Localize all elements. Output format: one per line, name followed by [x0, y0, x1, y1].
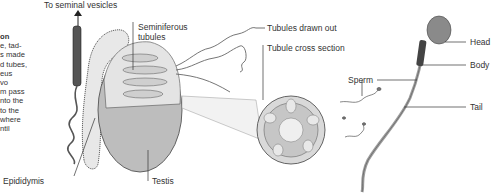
large-sperm [362, 16, 451, 192]
caption-paragraph: on e, tad- s made d tubes, eus vo m pass… [0, 32, 27, 133]
label-to-seminal-vesicles: To seminal vesicles [44, 0, 117, 10]
caption-line: nto the [0, 96, 27, 105]
caption-heading: on [0, 32, 27, 41]
reproductive-diagram [0, 0, 496, 194]
label-tubules-drawn-out: Tubules drawn out [267, 23, 337, 33]
label-epididymis: Epididymis [3, 176, 44, 186]
tubules-drawn-out [176, 28, 256, 92]
label-sperm: Sperm [348, 75, 373, 85]
caption-line: to the [0, 106, 27, 115]
caption-line: where [0, 115, 27, 124]
caption-line: d tubes, [0, 60, 27, 69]
tubule-cross-section [257, 96, 325, 164]
label-seminiferous-tubules-1: Seminiferous [138, 22, 188, 32]
caption-line: s made [0, 50, 27, 59]
label-head: Head [470, 37, 490, 47]
label-body: Body [470, 60, 489, 70]
small-sperm [340, 88, 381, 138]
caption-line: ntil [0, 124, 27, 133]
label-testis: Testis [152, 176, 174, 186]
vas-deferens-arrow [68, 10, 82, 164]
caption-line: e, tad- [0, 41, 27, 50]
caption-line: eus [0, 69, 27, 78]
label-tail: Tail [470, 102, 483, 112]
magnification-cone [182, 96, 262, 140]
caption-line: m pass [0, 87, 27, 96]
label-tubule-cross-section: Tubule cross section [267, 43, 345, 53]
testis-shape [98, 42, 182, 172]
label-seminiferous-tubules-2: tubules [138, 32, 165, 42]
caption-line: vo [0, 78, 27, 87]
